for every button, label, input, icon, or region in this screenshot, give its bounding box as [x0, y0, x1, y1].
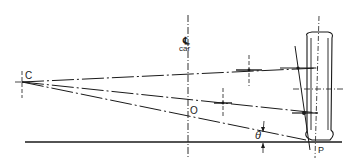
upper-arm-line: [22, 68, 318, 82]
lower-ball-joint: [302, 111, 306, 115]
upper-pivot-point: [248, 69, 251, 72]
theta-arrowhead-bottom: [261, 143, 265, 148]
label-centerline-car: car: [179, 44, 190, 53]
label-p: P: [318, 145, 324, 155]
tire-outline: [306, 32, 334, 140]
label-c: C: [25, 70, 32, 81]
wheel-centerline: [315, 16, 319, 158]
label-theta: θ: [255, 129, 261, 141]
upper-ball-joint: [296, 66, 299, 69]
lower-pivot-point: [222, 102, 225, 105]
kingpin-axis: [295, 46, 310, 150]
lower-arm-line: [22, 82, 318, 113]
suspension-geometry-diagram: C ℄ car O θ P: [0, 0, 357, 163]
label-o: O: [190, 105, 198, 116]
